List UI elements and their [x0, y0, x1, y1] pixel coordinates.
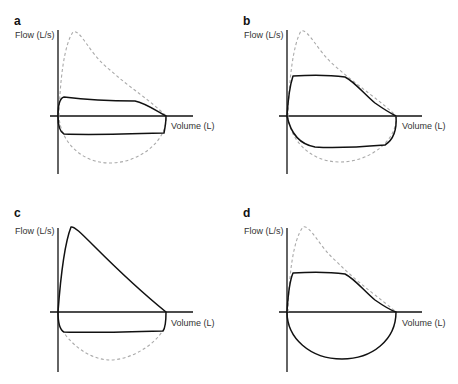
flow-volume-figure: a Flow (L/s) Volume (L) b Flow (L/s) Vol…: [0, 0, 458, 384]
normal-curve: [288, 227, 396, 312]
x-axis-label: Volume (L): [402, 121, 446, 131]
patient-curve: [287, 272, 396, 359]
y-axis-label: Flow (L/s): [244, 226, 284, 236]
normal-curve: [288, 31, 396, 162]
x-axis-label: Volume (L): [402, 318, 446, 328]
normal-curve: [59, 32, 166, 163]
x-axis-label: Volume (L): [171, 318, 215, 328]
panel-d: d Flow (L/s) Volume (L): [243, 206, 446, 372]
y-axis-label: Flow (L/s): [15, 30, 55, 40]
panel-letter: c: [14, 206, 21, 220]
panel-letter: d: [243, 206, 250, 220]
panel-c: c Flow (L/s) Volume (L): [14, 206, 215, 372]
patient-curve: [287, 75, 396, 147]
normal-curve: [62, 330, 163, 360]
panel-b: b Flow (L/s) Volume (L): [243, 14, 446, 174]
panel-a: a Flow (L/s) Volume (L): [14, 14, 215, 174]
panel-letter: b: [243, 14, 250, 28]
y-axis-label: Flow (L/s): [15, 226, 55, 236]
x-axis-label: Volume (L): [171, 121, 215, 131]
panel-letter: a: [14, 14, 21, 28]
patient-curve: [58, 227, 166, 333]
y-axis-label: Flow (L/s): [244, 30, 284, 40]
